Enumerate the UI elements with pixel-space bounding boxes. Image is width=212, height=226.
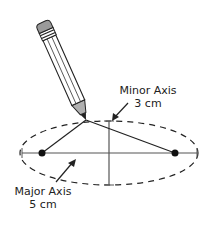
minor-axis-title: Minor Axis: [110, 84, 186, 97]
major-axis-label: Major Axis 5 cm: [8, 185, 78, 211]
right-focus-pin: [172, 150, 179, 157]
left-focus-pin: [39, 150, 46, 157]
minor-axis-value: 3 cm: [110, 97, 186, 110]
major-axis-arrow: [56, 159, 76, 182]
major-axis-title: Major Axis: [8, 185, 78, 198]
pencil-icon: [36, 19, 93, 123]
major-axis-value: 5 cm: [8, 198, 78, 211]
minor-axis-label: Minor Axis 3 cm: [110, 84, 186, 110]
